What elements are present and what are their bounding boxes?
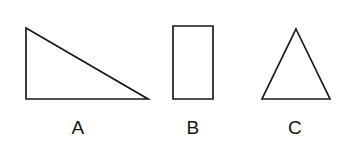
shape-label-a: A [72, 118, 85, 137]
shape-label-b: B [187, 118, 200, 137]
shape-b-rectangle [173, 26, 213, 99]
shape-label-c: C [288, 118, 302, 137]
shape-a-right-triangle [26, 28, 148, 99]
shape-c-isosceles-triangle [262, 29, 330, 99]
figure-canvas: A B C [0, 0, 351, 153]
